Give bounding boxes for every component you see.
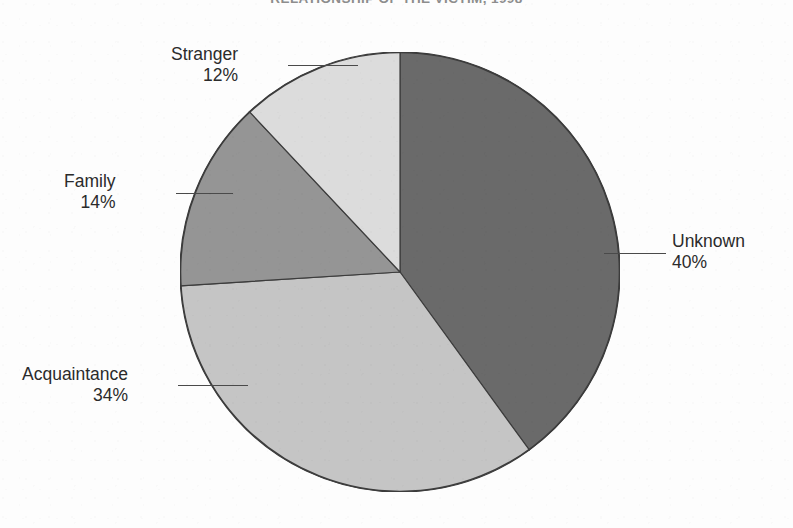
pie-label-stranger-name: Stranger — [171, 44, 238, 64]
leader-line-acquaintance — [178, 385, 248, 386]
leader-line-stranger — [288, 65, 358, 66]
pie-label-acquaintance-value: 34% — [22, 385, 128, 406]
chart-title: RELATIONSHIP OF THE VICTIM, 1998 — [0, 0, 793, 6]
pie-label-unknown-value: 40% — [672, 252, 745, 273]
pie-label-family-name: Family — [64, 171, 116, 191]
pie-label-acquaintance-name: Acquaintance — [22, 364, 128, 384]
pie-chart-figure: RELATIONSHIP OF THE VICTIM, 1998 Strange… — [0, 0, 793, 528]
pie-label-family-value: 14% — [64, 192, 116, 213]
pie-label-stranger-value: 12% — [171, 65, 238, 86]
pie-label-stranger: Stranger 12% — [171, 44, 238, 85]
pie-label-unknown: Unknown 40% — [672, 231, 745, 272]
pie-label-unknown-name: Unknown — [672, 231, 745, 251]
pie-chart-graphic — [180, 52, 620, 492]
pie-label-family: Family 14% — [64, 171, 116, 212]
pie-svg — [180, 52, 620, 492]
pie-label-acquaintance: Acquaintance 34% — [22, 364, 128, 405]
leader-line-family — [176, 193, 233, 194]
leader-line-unknown — [604, 253, 666, 254]
